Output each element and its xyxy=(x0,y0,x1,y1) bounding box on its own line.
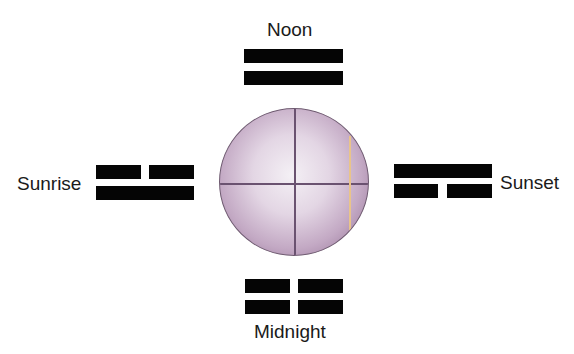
midnight-label: Midnight xyxy=(254,322,326,341)
sunrise-label: Sunrise xyxy=(17,174,81,193)
noon-label: Noon xyxy=(267,20,312,39)
sphere-highlight-line xyxy=(349,136,351,233)
sunset-line-2-broken-right xyxy=(447,184,492,198)
midnight-line-2-broken-left xyxy=(245,300,290,314)
noon-line-1-solid xyxy=(244,49,343,63)
midnight-line-2-broken-right xyxy=(298,300,343,314)
sphere-horizontal-equator xyxy=(220,183,368,185)
sunrise-line-1-broken-right xyxy=(149,165,194,179)
sunset-label: Sunset xyxy=(500,173,559,192)
sunset-line-2-broken-left xyxy=(394,184,438,198)
sunset-line-1-solid xyxy=(394,164,492,178)
noon-line-2-solid xyxy=(244,71,343,85)
sphere xyxy=(219,108,369,256)
sunrise-line-1-broken-left xyxy=(96,165,141,179)
midnight-line-1-broken-right xyxy=(298,279,343,293)
sphere-vertical-meridian xyxy=(294,109,296,255)
sunrise-line-2-solid xyxy=(96,186,194,200)
midnight-line-1-broken-left xyxy=(245,279,290,293)
